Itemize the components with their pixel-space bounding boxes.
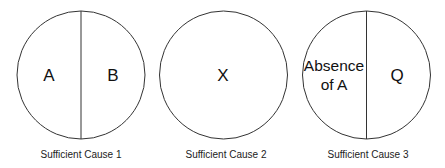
- component-absence-of-a-line2: of A: [303, 75, 365, 94]
- sufficient-cause-2-label: Sufficient Cause 2: [156, 149, 296, 160]
- component-absence-of-a: Absence of A: [303, 56, 365, 94]
- component-absence-of-a-line1: Absence: [303, 56, 365, 75]
- component-q: Q: [382, 66, 412, 85]
- sufficient-cause-3-label: Sufficient Cause 3: [298, 149, 438, 160]
- component-a: A: [34, 66, 64, 85]
- component-b: B: [98, 66, 128, 85]
- component-x: X: [208, 66, 238, 85]
- sufficient-cause-1-label: Sufficient Cause 1: [11, 149, 151, 160]
